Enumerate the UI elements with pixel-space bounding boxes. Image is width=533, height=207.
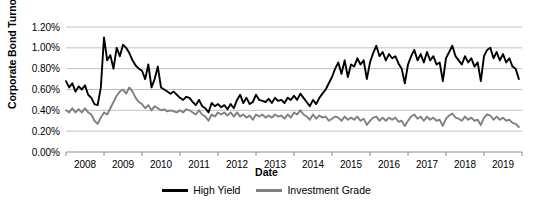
y-tick-label: 0.60% (32, 84, 60, 95)
series-line-investment-grade (66, 87, 519, 127)
y-tick-label: 1.20% (32, 22, 60, 33)
legend-swatch-high-yield (162, 189, 188, 192)
chart-container: Corporate Bond Turnover (%) 0.00%0.20%0.… (0, 0, 533, 207)
x-tick-marks-group (66, 152, 522, 156)
y-tick-label: 0.80% (32, 63, 60, 74)
gridlines-group (66, 27, 522, 152)
legend-swatch-investment-grade (256, 189, 282, 192)
data-series-group (66, 37, 519, 127)
y-tick-label: 0.40% (32, 105, 60, 116)
x-axis-title: Date (0, 166, 533, 178)
y-tick-label: 0.00% (32, 147, 60, 158)
legend-label-high-yield: High Yield (193, 184, 240, 196)
chart-legend: High Yield Investment Grade (0, 184, 533, 196)
legend-item-high-yield[interactable]: High Yield (162, 184, 240, 196)
y-tick-labels-group: 0.00%0.20%0.40%0.60%0.80%1.00%1.20% (32, 22, 60, 158)
series-line-high-yield (66, 37, 519, 112)
legend-item-investment-grade[interactable]: Investment Grade (256, 184, 370, 196)
y-tick-label: 1.00% (32, 42, 60, 53)
y-tick-label: 0.20% (32, 126, 60, 137)
legend-label-investment-grade: Investment Grade (287, 184, 370, 196)
